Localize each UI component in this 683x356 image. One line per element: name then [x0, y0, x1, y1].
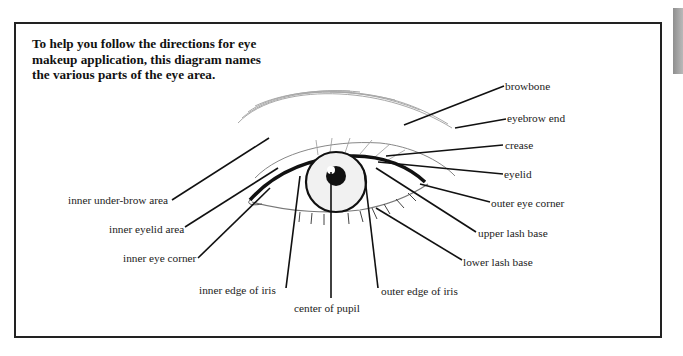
- label-inner-eye-corner: inner eye corner: [123, 252, 196, 264]
- label-outer-eye-corner: outer eye corner: [491, 197, 564, 209]
- label-upper-lash-base: upper lash base: [478, 227, 548, 239]
- label-eyebrow-end: eyebrow end: [507, 112, 565, 124]
- label-outer-edge-of-iris: outer edge of iris: [381, 285, 458, 297]
- label-eyelid: eyelid: [504, 168, 532, 180]
- label-lower-lash-base: lower lash base: [463, 256, 533, 268]
- label-inner-edge-of-iris: inner edge of iris: [199, 284, 276, 296]
- label-inner-eyelid-area: inner eyelid area: [109, 223, 184, 235]
- label-inner-under-brow-area: inner under-brow area: [68, 194, 168, 206]
- label-browbone: browbone: [505, 80, 550, 92]
- eyebrow-sketch: [238, 91, 452, 128]
- label-crease: crease: [505, 139, 533, 151]
- label-center-of-pupil: center of pupil: [294, 302, 360, 314]
